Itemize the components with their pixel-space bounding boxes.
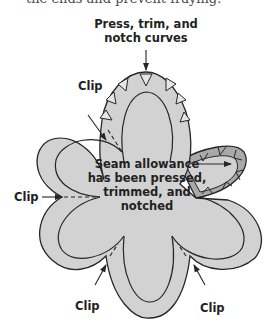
center-label-line3: trimmed, and (103, 185, 191, 199)
seam-allowance-diagram: Press, trim, and notch curves Clip Clip … (0, 0, 278, 334)
clip-label-upper-left: Clip (78, 79, 103, 93)
clip-label-left: Clip (14, 190, 39, 204)
title-label-line2: notch curves (104, 31, 188, 45)
center-label-line4: notched (121, 199, 174, 213)
center-label-line1: Seam allowance (95, 157, 200, 171)
title-label-line1: Press, trim, and (94, 17, 198, 31)
clip-label-bottom-left: Clip (75, 299, 100, 313)
center-label-line2: has been pressed, (88, 171, 207, 185)
clip-label-bottom-right: Clip (200, 301, 225, 315)
